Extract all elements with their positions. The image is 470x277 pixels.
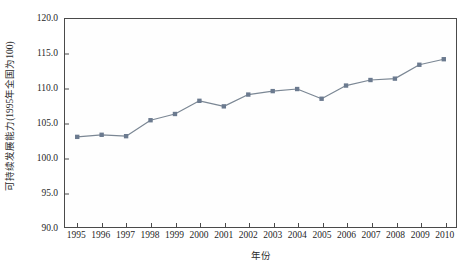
x-axis-tick-label: 2006 <box>337 230 356 240</box>
x-axis-tick-label: 1999 <box>165 230 184 240</box>
sustainable-development-line-chart: 可持续发展能力(1995年全国为100) 90.095.0100.0105.01… <box>0 0 470 277</box>
data-point-marker <box>197 99 201 103</box>
x-axis-tick-label: 2008 <box>386 230 405 240</box>
data-point-marker <box>295 87 299 91</box>
x-axis-tick-mark <box>225 223 226 227</box>
x-axis-tick-mark <box>446 223 447 227</box>
series-line <box>77 59 444 137</box>
data-point-marker <box>271 89 275 93</box>
y-axis-tick-label: 110.0 <box>37 83 58 93</box>
data-point-marker <box>173 112 177 116</box>
x-axis-tick-mark <box>200 223 201 227</box>
x-axis-tick-mark <box>421 223 422 227</box>
x-axis-tick-label: 2010 <box>435 230 454 240</box>
data-point-marker <box>442 57 446 61</box>
x-axis-tick-label: 2003 <box>263 230 282 240</box>
data-point-marker <box>368 78 372 82</box>
x-axis-tick-label: 2002 <box>239 230 258 240</box>
x-axis-tick-mark <box>77 223 78 227</box>
y-axis-tick-mark <box>65 159 69 160</box>
y-axis-tick-mark <box>65 89 69 90</box>
x-axis-tick-label: 2000 <box>190 230 209 240</box>
x-axis-tick-label: 1997 <box>116 230 135 240</box>
x-axis-tick-mark <box>397 223 398 227</box>
data-point-marker <box>319 97 323 101</box>
data-point-marker <box>75 135 79 139</box>
data-point-marker <box>222 104 226 108</box>
data-point-marker <box>99 133 103 137</box>
x-axis-tick-mark <box>347 223 348 227</box>
x-axis-tick-label: 1996 <box>91 230 110 240</box>
data-point-marker <box>148 118 152 122</box>
data-series-line <box>65 19 456 227</box>
data-point-marker <box>124 134 128 138</box>
x-axis-tick-mark <box>372 223 373 227</box>
y-axis-tick-labels: 90.095.0100.0105.0110.0115.0120.0 <box>18 0 62 240</box>
x-axis-tick-mark <box>323 223 324 227</box>
x-axis-tick-mark <box>176 223 177 227</box>
x-axis-tick-mark <box>298 223 299 227</box>
x-axis-tick-label: 2001 <box>214 230 233 240</box>
x-axis-title: 年份 <box>64 248 457 262</box>
plot-area <box>64 18 457 228</box>
x-axis-tick-mark <box>151 223 152 227</box>
y-axis-tick-mark <box>65 124 69 125</box>
x-axis-tick-mark <box>126 223 127 227</box>
data-point-marker <box>344 83 348 87</box>
y-axis-tick-label: 115.0 <box>37 48 58 58</box>
y-axis-tick-mark <box>65 194 69 195</box>
y-axis-title: 可持续发展能力(1995年全国为100) <box>0 0 18 232</box>
data-point-marker <box>393 76 397 80</box>
x-axis-tick-mark <box>249 223 250 227</box>
y-axis-tick-label: 120.0 <box>37 13 58 23</box>
y-axis-tick-label: 90.0 <box>41 223 58 233</box>
x-axis-tick-mark <box>102 223 103 227</box>
x-axis-tick-label: 1998 <box>140 230 159 240</box>
y-axis-tick-label: 105.0 <box>37 118 58 128</box>
data-point-marker <box>417 63 421 67</box>
x-axis-tick-label: 1995 <box>67 230 86 240</box>
y-axis-tick-mark <box>65 54 69 55</box>
x-axis-tick-label: 2004 <box>288 230 307 240</box>
x-axis-tick-label: 2007 <box>362 230 381 240</box>
data-point-marker <box>246 92 250 96</box>
x-axis-tick-label: 2005 <box>312 230 331 240</box>
x-axis-tick-mark <box>274 223 275 227</box>
x-axis-tick-label: 2009 <box>411 230 430 240</box>
y-axis-title-text: 可持续发展能力(1995年全国为100) <box>2 41 16 191</box>
x-axis-tick-labels: 1995199619971998199920002001200220032004… <box>64 230 457 246</box>
y-axis-tick-label: 100.0 <box>37 153 58 163</box>
y-axis-tick-label: 95.0 <box>41 188 58 198</box>
